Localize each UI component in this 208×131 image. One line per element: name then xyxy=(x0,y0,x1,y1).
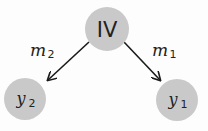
node-y1: y 1 xyxy=(156,79,198,121)
node-y1-subscript: 1 xyxy=(181,98,188,111)
node-iv-label: IV xyxy=(97,18,118,42)
edge-label-m2-subscript: 2 xyxy=(48,48,55,61)
node-y2: y 2 xyxy=(4,78,46,120)
edge-label-m1-text: m xyxy=(152,40,168,60)
edge-label-m2-text: m xyxy=(30,40,46,60)
edge-label-m1: m 1 xyxy=(152,40,177,61)
edge-label-m2: m 2 xyxy=(30,40,55,61)
node-y1-label: y xyxy=(167,90,178,109)
node-iv: IV xyxy=(85,7,129,51)
node-y2-subscript: 2 xyxy=(29,97,36,110)
causal-graph: IV y 2 y 1 m 2 m 1 xyxy=(0,0,208,131)
diagram-canvas: IV y 2 y 1 m 2 m 1 xyxy=(0,0,208,131)
edge-label-m1-subscript: 1 xyxy=(170,48,177,61)
node-y2-label: y xyxy=(15,89,26,108)
